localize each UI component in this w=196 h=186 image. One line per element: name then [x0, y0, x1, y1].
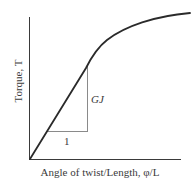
y-axis-label: Torque, T	[12, 59, 24, 102]
slope-run-label: 1	[64, 135, 70, 147]
slope-rise-label: GJ	[91, 93, 105, 105]
torque-twist-chart: GJ 1 Torque, T Angle of twist/Length, φ/…	[0, 0, 196, 186]
x-axis-label: Angle of twist/Length, φ/L	[41, 166, 160, 178]
torque-curve	[30, 13, 190, 159]
